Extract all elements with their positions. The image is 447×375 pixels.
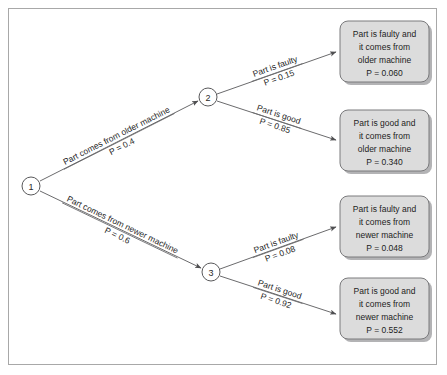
outcome-probability: P = 0.340 [366,157,403,167]
branch-line-older-machine [40,101,198,181]
outcome-box-1[interactable]: Part is faulty and it comes from older m… [340,21,432,85]
outcome-line-3: older machine [358,55,412,65]
outcome-line-1: Part is good and [354,118,416,128]
node-label: 2 [205,93,210,103]
outcome-line-2: it comes from [359,131,410,141]
outcome-line-3: older machine [358,144,412,154]
outcome-box-3[interactable]: Part is faulty and it comes from newer m… [340,196,432,260]
branch-label-text: Part comes from older machine [61,104,171,166]
outcome-line-1: Part is faulty and [353,29,417,39]
branch-label-newer-machine: Part comes from newer machine P = 0.6 [58,192,183,267]
outcome-line-3: newer machine [356,230,414,240]
node-label: 3 [208,268,213,278]
node-2[interactable]: 2 [199,88,217,106]
tree-diagram-canvas: Part comes from older machine P = 0.4 Pa… [0,0,447,375]
outcome-probability: P = 0.048 [366,243,403,253]
branch-label-older-good: Part is good P = 0.85 [249,101,305,138]
branch-line-newer-machine [40,191,201,268]
branch-label-text: Part comes from newer machine [65,194,180,256]
branch-label-older-faulty: Part is faulty P = 0.15 [248,53,306,92]
node-3[interactable]: 3 [202,263,220,281]
outcome-probability: P = 0.060 [366,68,403,78]
branch-line-newer-faulty [220,227,336,269]
branch-line-newer-good [220,276,336,314]
outcome-line-1: Part is faulty and [353,204,417,214]
outcome-line-2: it comes from [359,42,410,52]
outcome-probability: P = 0.552 [366,325,403,335]
outcome-line-2: it comes from [359,299,410,309]
probability-tree-figure: Part comes from older machine P = 0.4 Pa… [0,0,447,375]
node-label: 1 [28,182,33,192]
node-1[interactable]: 1 [22,177,40,195]
outcome-line-1: Part is good and [354,286,416,296]
outcome-box-2[interactable]: Part is good and it comes from older mac… [340,110,432,174]
branch-lines [40,52,336,314]
outcome-line-3: newer machine [356,312,414,322]
outcome-line-2: it comes from [359,217,410,227]
outcome-box-4[interactable]: Part is good and it comes from newer mac… [340,278,432,342]
